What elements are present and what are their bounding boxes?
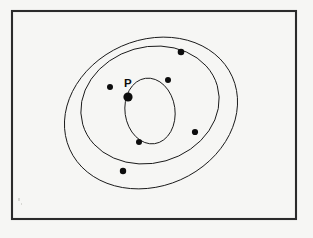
diagram-background xyxy=(0,0,313,238)
point-p-dot xyxy=(123,92,132,101)
labels-group: P xyxy=(124,77,132,89)
point-right-dot xyxy=(192,129,198,135)
point-upper-mid-dot xyxy=(165,77,171,83)
point-bottom-left-dot xyxy=(120,168,126,174)
paper-speck xyxy=(18,198,20,201)
paper-speck xyxy=(21,203,22,205)
figure-page: P xyxy=(0,0,313,238)
geometry-diagram: P xyxy=(0,0,313,238)
point-lower-inner-dot xyxy=(136,139,142,145)
point-label-p: P xyxy=(124,77,132,89)
point-top-right-dot xyxy=(178,49,185,56)
point-upper-left-dot xyxy=(107,84,113,90)
figure-frame: P xyxy=(0,0,313,238)
